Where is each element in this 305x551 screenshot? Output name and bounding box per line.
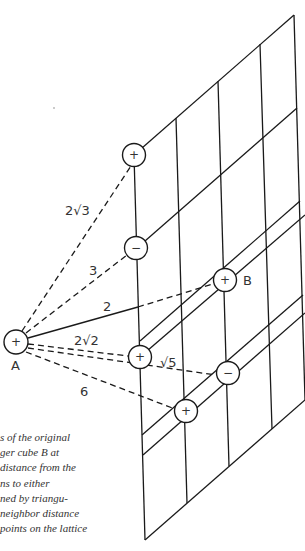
lattice-slant-line: [134, 15, 294, 155]
sign-lattice-minus-2: −: [223, 366, 233, 380]
sign-lattice-plus-bottom: +: [181, 404, 191, 418]
lattice-vertical-line: [260, 44, 272, 429]
sign-A: +: [11, 335, 21, 349]
distance-line-6: [26, 352, 175, 409]
caption-line: points on the lattice: [0, 521, 140, 536]
caption-line: distance from the: [0, 460, 140, 475]
stray-dot: [53, 107, 55, 109]
lattice-slant-line: [145, 400, 305, 540]
distance-label-6: 6: [80, 384, 88, 399]
distance-label-3: 3: [89, 263, 97, 278]
distance-lines: [22, 166, 216, 409]
distance-label-2sqrt3: 2√3: [65, 203, 90, 218]
figure-caption: s of the original ger cube B at distance…: [0, 430, 140, 536]
sign-lattice-minus-1: −: [131, 241, 141, 255]
caption-line: ns to either: [0, 476, 140, 491]
sign-B: +: [220, 273, 230, 287]
label-A: A: [11, 358, 20, 373]
distance-label-2sqrt2: 2√2: [74, 333, 99, 348]
distance-line-3: [26, 255, 127, 333]
distance-line-2sqrt3: [22, 166, 131, 331]
lattice-vertical-line: [176, 118, 187, 503]
caption-line: ger cube B at: [0, 445, 140, 460]
distance-line-sqrt5: [28, 348, 216, 375]
sign-lattice-top: +: [129, 148, 139, 162]
caption-line: s of the original: [0, 430, 140, 445]
distance-label-2: 2: [103, 299, 111, 314]
caption-line: ned by triangu-: [0, 491, 140, 506]
lattice-slant-line: [137, 108, 297, 248]
caption-line: neighbor distance: [0, 506, 140, 521]
distance-label-sqrt5: √5: [160, 355, 177, 370]
lattice-vertical-line: [294, 15, 305, 400]
sign-lattice-plus-mid: +: [135, 350, 145, 364]
label-B: B: [243, 273, 252, 288]
